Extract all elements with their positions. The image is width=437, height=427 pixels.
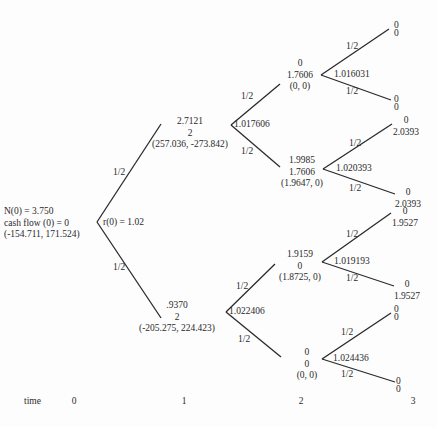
node-t2-uu-line-2: 1.7606 xyxy=(287,70,313,82)
node-t2-dd-line-3: (0, 0) xyxy=(297,370,318,382)
leaf-t3-5-line-2: 1.9527 xyxy=(392,218,418,230)
edge-u-down xyxy=(231,125,280,167)
edge-d-up xyxy=(226,264,275,312)
node-t1-down: .9370 2 (-205.275, 224.423) xyxy=(139,300,215,335)
node-t1-down-line-1: .9370 xyxy=(139,300,215,312)
prob-du-up: 1/2 xyxy=(346,229,358,241)
leaf-t3-6: 0 1.9527 xyxy=(394,279,420,302)
leaf-t3-6-line-2: 1.9527 xyxy=(394,291,420,303)
prob-dd-down: 1/2 xyxy=(341,369,353,381)
rate-t2-uu: 1.016031 xyxy=(334,69,370,81)
prob-u-up: 1/2 xyxy=(241,91,253,103)
root-line-2: cash flow (0) = 0 xyxy=(4,218,80,230)
node-t1-up-line-1: 2.7121 xyxy=(152,116,228,128)
node-t2-ud-line-3: (1.9647, 0) xyxy=(281,178,323,190)
leaf-t3-3: 0 2.0393 xyxy=(393,115,419,138)
rate-t2-ud: 1.020393 xyxy=(336,163,372,175)
root-node: N(0) = 3.750 cash flow (0) = 0 (-154.711… xyxy=(4,206,80,241)
binomial-tree-diagram: N(0) = 3.750 cash flow (0) = 0 (-154.711… xyxy=(0,0,437,427)
leaf-t3-8-line-2: 0 xyxy=(396,385,401,393)
node-t2-du-line-2: 0 xyxy=(279,261,321,273)
rate-t1-down: 1.022406 xyxy=(229,306,265,318)
timeline-label: time xyxy=(24,396,41,408)
root-line-3: (-154.711, 171.524) xyxy=(4,229,80,241)
rate-t1-up: 1.017606 xyxy=(234,119,270,131)
timeline-tick-1: 1 xyxy=(182,396,187,408)
prob-ud-up: 1/2 xyxy=(349,138,361,150)
node-t2-dd-line-2: 0 xyxy=(297,359,318,371)
leaf-t3-7: 0 0 xyxy=(394,305,399,321)
node-t1-up-line-3: (257.036, -273.842) xyxy=(152,139,228,151)
prob-ud-down: 1/2 xyxy=(349,183,361,195)
leaf-t3-5-line-1: 0 xyxy=(392,206,418,218)
node-t2-uu-line-1: 0 xyxy=(287,58,313,70)
node-t2-uu-line-3: (0, 0) xyxy=(287,81,313,93)
prob-0-down: 1/2 xyxy=(113,262,125,274)
prob-du-down: 1/2 xyxy=(346,273,358,285)
leaf-t3-4-line-1: 0 xyxy=(395,187,421,199)
node-t2-du-line-3: (1.8725, 0) xyxy=(279,272,321,284)
root-line-1: N(0) = 3.750 xyxy=(4,206,80,218)
timeline-tick-0: 0 xyxy=(72,396,77,408)
leaf-t3-6-line-1: 0 xyxy=(394,279,420,291)
leaf-t3-2-line-2: 0 xyxy=(394,103,399,111)
prob-u-down: 1/2 xyxy=(241,146,253,158)
node-t2-dd-line-1: 0 xyxy=(297,347,318,359)
node-t2-ud: 1.9985 1.7606 (1.9647, 0) xyxy=(281,155,323,190)
leaf-t3-7-line-2: 0 xyxy=(394,313,399,321)
leaf-t3-3-line-2: 2.0393 xyxy=(393,127,419,139)
prob-uu-up: 1/2 xyxy=(346,41,358,53)
edge-d-down xyxy=(226,312,281,357)
rate-t2-dd: 1.024436 xyxy=(333,353,369,365)
rate-t2-du: 1.019193 xyxy=(334,256,370,268)
leaf-t3-8: 0 0 xyxy=(396,377,401,393)
node-t2-du: 1.9159 0 (1.8725, 0) xyxy=(279,249,321,284)
node-t1-up-line-2: 2 xyxy=(152,128,228,140)
timeline-tick-3: 3 xyxy=(411,396,416,408)
leaf-t3-1: 0 0 xyxy=(394,21,399,37)
node-t1-down-line-2: 2 xyxy=(139,312,215,324)
node-t2-dd: 0 0 (0, 0) xyxy=(297,347,318,382)
node-t2-ud-line-1: 1.9985 xyxy=(281,155,323,167)
prob-0-up: 1/2 xyxy=(113,167,125,179)
leaf-t3-2: 0 0 xyxy=(394,95,399,111)
root-rate: r(0) = 1.02 xyxy=(103,217,144,229)
node-t1-down-line-3: (-205.275, 224.423) xyxy=(139,323,215,335)
node-t1-up: 2.7121 2 (257.036, -273.842) xyxy=(152,116,228,151)
prob-d-up: 1/2 xyxy=(236,281,248,293)
node-t2-du-line-1: 1.9159 xyxy=(279,249,321,261)
node-t2-ud-line-2: 1.7606 xyxy=(281,167,323,179)
leaf-t3-3-line-1: 0 xyxy=(393,115,419,127)
leaf-t3-5: 0 1.9527 xyxy=(392,206,418,229)
leaf-t3-1-line-2: 0 xyxy=(394,29,399,37)
node-t2-uu: 0 1.7606 (0, 0) xyxy=(287,58,313,93)
prob-uu-down: 1/2 xyxy=(346,86,358,98)
prob-d-down: 1/2 xyxy=(238,334,250,346)
timeline-tick-2: 2 xyxy=(299,396,304,408)
prob-dd-up: 1/2 xyxy=(341,327,353,339)
